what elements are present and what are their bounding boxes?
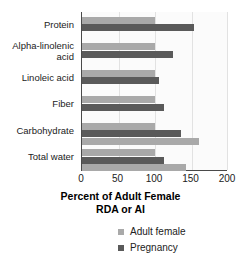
bar-adult-female [82, 123, 155, 130]
x-tick-label: 50 [112, 173, 123, 184]
bar-group [82, 39, 227, 66]
bar-adult-female [82, 43, 155, 50]
x-tick-label: 100 [146, 173, 163, 184]
bar-group [82, 92, 227, 119]
bar-groups [82, 12, 227, 170]
x-tick-label: 150 [182, 173, 199, 184]
x-axis-ticks: 050100150200 [0, 173, 241, 187]
bar-group [82, 65, 227, 92]
y-axis-label: Total water [28, 152, 74, 163]
legend-item: Adult female [118, 226, 186, 238]
bar-pregnancy [82, 157, 164, 164]
bar-group [82, 12, 227, 39]
bar-adult-female [82, 17, 155, 24]
x-tick-label: 0 [78, 173, 84, 184]
legend-swatch-icon [118, 229, 124, 235]
bar-adult-female-extended [82, 164, 186, 171]
x-axis-title-line2: RDA or AI [0, 203, 241, 216]
legend-label: Adult female [130, 226, 186, 238]
bar-adult-female [82, 96, 155, 103]
x-axis-title-line1: Percent of Adult Female [0, 190, 241, 203]
legend-swatch-icon [118, 245, 124, 251]
y-axis-label: Linoleic acid [22, 73, 74, 84]
y-axis-labels: ProteinAlpha-linolenic acidLinoleic acid… [0, 12, 78, 171]
x-axis-title: Percent of Adult Female RDA or AI [0, 190, 241, 215]
plot-area [81, 12, 227, 171]
gridline-200 [227, 12, 228, 170]
bar-pregnancy [82, 24, 194, 31]
bar-group [82, 118, 227, 145]
chart-legend: Adult femalePregnancy [118, 226, 186, 258]
bar-pregnancy [82, 77, 159, 84]
y-axis-label: Alpha-linolenic acid [12, 41, 74, 62]
bar-pregnancy [82, 130, 181, 137]
y-axis-label: Carbohydrate [16, 126, 74, 137]
y-axis-label: Protein [44, 20, 74, 31]
bar-group [82, 145, 227, 172]
x-tick-label: 200 [219, 173, 236, 184]
bar-pregnancy [82, 51, 173, 58]
y-axis-label: Fiber [52, 99, 74, 110]
bar-adult-female [82, 149, 155, 156]
bar-chart: ProteinAlpha-linolenic acidLinoleic acid… [0, 0, 241, 264]
legend-item: Pregnancy [118, 242, 186, 254]
bar-pregnancy [82, 104, 164, 111]
legend-label: Pregnancy [130, 242, 178, 254]
bar-adult-female [82, 70, 155, 77]
